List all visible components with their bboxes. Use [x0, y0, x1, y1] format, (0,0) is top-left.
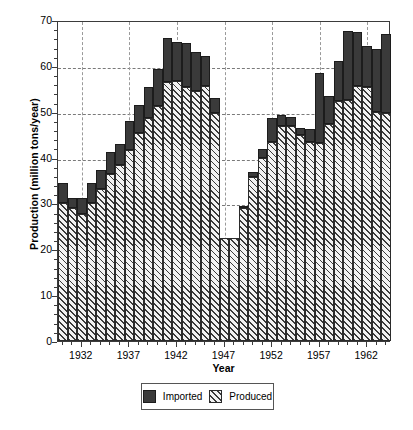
y-tick-label: 10 [12, 290, 52, 300]
x-tick-minor [262, 342, 263, 345]
y-tick [52, 296, 57, 297]
x-tick-minor [138, 342, 139, 345]
y-tick-minor [54, 223, 57, 224]
bar-stack [144, 20, 154, 341]
y-tick-minor [54, 278, 57, 279]
bar-segment-imported [334, 61, 344, 101]
x-tick-minor [281, 342, 282, 345]
bar-segment-imported [77, 198, 87, 213]
bar-segment-produced [58, 203, 68, 341]
plot-area [57, 21, 390, 342]
bar-stack [220, 20, 230, 341]
y-tick-minor [54, 30, 57, 31]
y-tick-minor [54, 168, 57, 169]
bar-stack [229, 20, 239, 341]
y-tick-minor [54, 94, 57, 95]
x-tick [366, 342, 367, 347]
bar-segment-produced [353, 86, 363, 341]
y-tick-minor [54, 140, 57, 141]
bars-layer [58, 22, 389, 341]
bar-segment-imported [248, 172, 258, 177]
bar-segment-imported [267, 118, 277, 142]
y-tick-minor [54, 232, 57, 233]
y-tick-label: 20 [12, 244, 52, 254]
y-tick [52, 250, 57, 251]
y-tick-minor [54, 131, 57, 132]
x-tick-minor [328, 342, 329, 345]
bar-segment-produced [220, 238, 230, 341]
bar-segment-imported [381, 34, 391, 113]
y-tick-minor [54, 58, 57, 59]
bar-segment-produced [153, 106, 163, 341]
bar-segment-imported [115, 144, 125, 166]
y-tick-label: 70 [12, 15, 52, 25]
x-tick-minor [357, 342, 358, 345]
y-tick-minor [54, 76, 57, 77]
bar-segment-produced [267, 142, 277, 341]
x-tick-label: 1942 [153, 349, 199, 361]
bar-stack [172, 20, 182, 341]
x-tick-label: 1932 [58, 349, 104, 361]
bar-segment-imported [68, 198, 78, 208]
x-tick [224, 342, 225, 347]
bar-stack [153, 20, 163, 341]
bar-segment-produced [115, 165, 125, 341]
chart-legend: Imported Produced [141, 383, 274, 410]
bar-segment-produced [134, 133, 144, 341]
x-tick-minor [385, 342, 386, 345]
bar-stack [77, 20, 87, 341]
y-tick-label: 40 [12, 153, 52, 163]
x-tick-minor [100, 342, 101, 345]
y-tick-label: 30 [12, 198, 52, 208]
bar-segment-imported [286, 117, 296, 126]
bar-stack [182, 20, 192, 341]
bar-segment-imported [125, 121, 135, 150]
bar-stack [343, 20, 353, 341]
y-tick-minor [54, 85, 57, 86]
x-tick-minor [290, 342, 291, 345]
x-tick-minor [214, 342, 215, 345]
bar-stack [315, 20, 325, 341]
bar-stack [125, 20, 135, 341]
bar-stack [296, 20, 306, 341]
bar-segment-imported [172, 42, 182, 81]
y-tick [52, 204, 57, 205]
bar-segment-produced [315, 143, 325, 341]
bar-stack [353, 20, 363, 341]
y-tick-minor [54, 195, 57, 196]
x-tick-minor [147, 342, 148, 345]
bar-stack [106, 20, 116, 341]
bar-segment-imported [372, 49, 382, 111]
y-tick-label: 60 [12, 61, 52, 71]
x-tick-minor [166, 342, 167, 345]
bar-segment-produced [305, 142, 315, 341]
bar-segment-produced [96, 189, 106, 341]
legend-label-produced: Produced [229, 391, 272, 402]
bar-stack [96, 20, 106, 341]
x-tick-minor [195, 342, 196, 345]
bar-stack [58, 20, 68, 341]
bar-stack [277, 20, 287, 341]
bar-segment-produced [229, 238, 239, 341]
x-tick-minor [300, 342, 301, 345]
y-tick-minor [54, 259, 57, 260]
bar-stack [305, 20, 315, 341]
bar-stack [372, 20, 382, 341]
bar-segment-produced [125, 150, 135, 341]
bar-segment-produced [324, 124, 334, 341]
y-tick-label: 0 [12, 336, 52, 346]
bar-segment-produced [163, 82, 173, 341]
x-tick [81, 342, 82, 347]
bar-stack [334, 20, 344, 341]
bar-segment-produced [286, 126, 296, 341]
x-tick-minor [90, 342, 91, 345]
bar-stack [191, 20, 201, 341]
bar-segment-imported [239, 206, 249, 208]
x-axis-title: Year [57, 362, 390, 374]
bar-stack [201, 20, 211, 341]
x-tick [128, 342, 129, 347]
x-tick-minor [376, 342, 377, 345]
y-tick-minor [54, 49, 57, 50]
x-tick-label: 1937 [105, 349, 151, 361]
bar-segment-produced [343, 100, 353, 341]
